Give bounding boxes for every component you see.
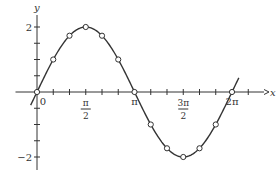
x-axis-label: x [270,87,276,98]
x-tick-label-denominator: 2 [180,111,186,121]
y-tick-label: 2 [26,22,32,33]
x-tick-label: 2π [226,96,239,107]
data-point [67,33,72,38]
data-point [51,57,56,62]
x-tick-label: π [131,96,138,107]
data-point [99,33,104,38]
y-axis-label: y [33,2,40,13]
data-point [83,24,88,29]
x-tick-label-denominator: 2 [83,111,89,121]
axes: xy [16,2,277,170]
y-tick-label: −2 [17,152,32,163]
data-point [213,122,218,127]
data-point [34,89,39,94]
data-point [181,154,186,159]
data-point [229,89,234,94]
x-tick-label-numerator: π [83,98,89,108]
data-point [164,146,169,151]
data-point [197,146,202,151]
x-tick-label: 0 [40,96,46,107]
data-point [132,89,137,94]
data-point [116,57,121,62]
x-tick-label-numerator: 3π [177,98,189,108]
data-point [148,122,153,127]
x-axis-arrow [264,90,269,95]
sine-chart: xy 0π2π3π22π2−2 [0,0,278,182]
